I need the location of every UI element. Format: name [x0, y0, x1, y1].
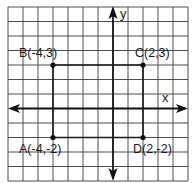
y-axis: [109, 6, 118, 181]
point-d-label: D(2,-2): [133, 142, 172, 156]
point-d: [140, 135, 145, 140]
point-b-label: B(-4,3): [19, 46, 57, 60]
point-b: [50, 62, 55, 67]
x-axis-label: x: [162, 90, 169, 105]
point-c: [140, 62, 145, 67]
y-axis-label: y: [120, 6, 127, 21]
point-a-label: A(-4,-2): [19, 142, 61, 156]
coordinate-grid-svg: y x B(-4,3) C(2,3) A(-4,-2) D(2,-2): [0, 0, 194, 183]
point-c-label: C(2,3): [135, 46, 170, 60]
coordinate-plane: y x B(-4,3) C(2,3) A(-4,-2) D(2,-2): [0, 0, 194, 183]
point-a: [50, 135, 55, 140]
